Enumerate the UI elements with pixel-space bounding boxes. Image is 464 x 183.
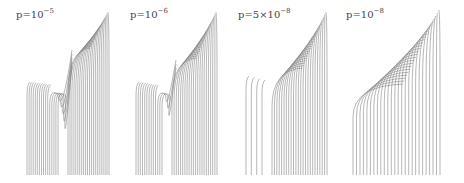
contour-line	[153, 85, 156, 175]
contour-line	[303, 36, 316, 175]
label-base: p=10	[130, 9, 158, 20]
contour-line	[419, 28, 430, 175]
contour-line	[395, 49, 420, 176]
contour-line	[151, 84, 154, 175]
contour-line	[149, 84, 152, 175]
contour-line	[97, 22, 103, 175]
contour-line	[313, 27, 320, 175]
contour-line	[437, 13, 438, 175]
label-exponent: −6	[158, 7, 168, 15]
contour-line	[374, 66, 412, 175]
label-exponent: −8	[374, 7, 384, 15]
contour-line	[136, 82, 139, 175]
contour-line	[138, 82, 141, 175]
contour-line	[52, 54, 72, 175]
contour-line	[430, 19, 435, 175]
panel-label-p3: p=5×10−8	[238, 9, 291, 20]
contour-line	[105, 15, 106, 175]
panel-label-p4: p=10−8	[346, 9, 384, 20]
contour-line	[181, 49, 201, 175]
contour-line	[143, 83, 146, 175]
contour-line	[33, 83, 36, 175]
contour-line	[274, 66, 303, 175]
contour-line	[172, 58, 197, 175]
contour-line	[216, 12, 217, 175]
contour-line	[42, 84, 45, 175]
contour-line	[27, 82, 30, 175]
contour-plots	[0, 0, 464, 183]
contour-line	[439, 10, 440, 175]
contour-line	[35, 83, 38, 175]
contour-line	[176, 54, 198, 175]
contour-line	[145, 83, 148, 175]
contour-line	[208, 21, 212, 175]
contour-line	[95, 24, 102, 175]
label-base: p=5×10	[238, 9, 280, 20]
contour-line	[101, 19, 104, 175]
contour-line	[29, 82, 32, 175]
contour-line	[50, 50, 72, 175]
contour-line	[257, 79, 260, 175]
contour-line	[384, 57, 416, 175]
contour-line	[381, 60, 415, 175]
contour-line	[196, 34, 207, 175]
label-base: p=10	[346, 9, 374, 20]
contour-line	[37, 83, 40, 175]
contour-line	[39, 84, 42, 175]
contour-line	[147, 84, 150, 175]
contour-line	[279, 61, 305, 175]
contour-line	[363, 75, 407, 175]
panel-label-p2: p=10−6	[130, 9, 168, 20]
contour-line	[326, 12, 327, 175]
label-base: p=10	[16, 9, 44, 20]
streamline-figure: p=10−5 p=10−6 p=5×10−8 p=10−8	[0, 0, 464, 183]
contour-line	[204, 25, 210, 175]
contour-line	[246, 76, 249, 175]
contour-line	[187, 43, 203, 175]
contour-line	[405, 40, 424, 175]
contour-line	[433, 16, 436, 175]
contour-line	[44, 84, 47, 175]
label-exponent: −8	[280, 7, 290, 15]
contour-line	[262, 80, 265, 175]
label-exponent: −5	[44, 7, 54, 15]
contour-line	[213, 16, 214, 175]
panel-label-p1: p=10−5	[16, 9, 54, 20]
contour-line	[31, 83, 34, 175]
contour-line	[251, 77, 254, 175]
contour-line	[46, 84, 49, 175]
contour-line	[108, 12, 109, 175]
contour-line	[158, 60, 176, 175]
contour-line	[140, 83, 143, 175]
contour-line	[88, 31, 99, 175]
contour-line	[322, 17, 324, 175]
